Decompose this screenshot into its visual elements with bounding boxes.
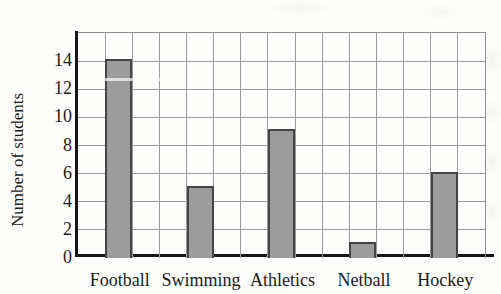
bar-hockey xyxy=(431,172,458,258)
bar-football xyxy=(105,59,132,258)
y-tick-label-10: 10 xyxy=(30,105,72,127)
plot-area xyxy=(78,32,486,258)
bar-athletics xyxy=(268,129,295,258)
bar-netball xyxy=(349,242,376,258)
y-tick-label-6: 6 xyxy=(30,162,72,184)
x-tick-label-athletics: Athletics xyxy=(250,268,315,292)
x-tick-label-hockey: Hockey xyxy=(417,268,473,292)
x-tick-label-swimming: Swimming xyxy=(162,268,241,292)
y-tick-label-12: 12 xyxy=(30,77,72,99)
horizontal-gridline xyxy=(78,89,485,90)
chart-page: Number of students 14121086420 FootballS… xyxy=(0,0,501,294)
y-tick-label-4: 4 xyxy=(30,190,72,212)
x-tick-label-netball: Netball xyxy=(337,268,390,292)
bar-swimming xyxy=(187,186,214,258)
x-tick-label-football: Football xyxy=(90,268,150,292)
y-tick-label-2: 2 xyxy=(30,218,72,240)
y-tick-label-14: 14 xyxy=(30,49,72,71)
horizontal-gridline xyxy=(78,117,485,118)
y-axis-title: Number of students xyxy=(7,80,29,240)
y-tick-label-8: 8 xyxy=(30,134,72,156)
y-tick-label-0: 0 xyxy=(30,246,72,268)
horizontal-gridline xyxy=(78,61,485,62)
